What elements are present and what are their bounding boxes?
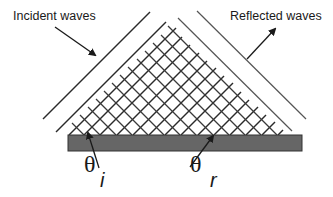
reflecting-surface [68,135,302,151]
theta-reflected-subscript: r [210,170,217,190]
reflected-arrow-icon [247,29,275,59]
theta-incident-symbol: θ [84,152,96,176]
theta-reflected-symbol: θ [190,152,202,176]
reflection-diagram [0,0,333,197]
reflected-waves-label: Reflected waves [230,9,322,23]
incident-waves-label: Incident waves [13,9,96,23]
theta-incident-subscript: i [100,170,104,190]
incident-arrow-icon [55,27,95,55]
